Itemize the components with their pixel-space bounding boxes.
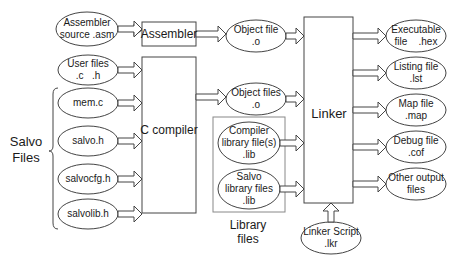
object-files-label: Object files .o [231, 87, 280, 111]
assembler-source-label: Assembler source .asm [60, 17, 114, 41]
linker-label: Linker [311, 106, 346, 122]
output-debug-label: Debug file .cof [393, 135, 438, 159]
arrow-icon [118, 95, 142, 111]
salvo-files-brace [49, 88, 58, 229]
output-listing-label: Listing file .lst [394, 61, 438, 85]
arrow-icon [118, 62, 142, 78]
arrow-icon [118, 206, 142, 222]
mem-c-label: mem.c [73, 97, 103, 109]
output-other-label: Other output files [388, 172, 444, 196]
c-compiler-label: C compiler [140, 123, 197, 137]
object-file-label: Object file .o [234, 24, 278, 48]
arrow-icon [353, 176, 386, 192]
arrow-icon [353, 65, 386, 81]
arrow-icon [280, 135, 304, 151]
arrow-icon [196, 89, 226, 105]
output-executable-label: Executable file .hex [391, 24, 440, 48]
arrow-icon [118, 133, 142, 149]
arrow-icon [196, 26, 226, 42]
linker-script-label: Linker Script .lkr [303, 226, 359, 250]
user-files-label: User files .c .h [67, 58, 109, 82]
salvo-h-label: salvo.h [72, 135, 104, 147]
assembler-label: Assembler [141, 27, 198, 41]
salvolib-h-label: salvolib.h [67, 208, 109, 220]
arrow-icon [353, 139, 386, 155]
arrow-icon [280, 181, 304, 197]
arrow-icon [353, 28, 386, 44]
compiler-library-label: Compiler library file(s) .lib [222, 125, 276, 161]
arrow-icon [118, 171, 142, 187]
library-files-group-label: Library files [230, 218, 267, 246]
salvo-library-label: Salvo library files .lib [225, 171, 273, 207]
arrow-icon [323, 203, 339, 222]
output-map-label: Map file .map [398, 98, 433, 122]
salvocfg-h-label: salvocfg.h [65, 173, 110, 185]
arrow-icon [118, 21, 142, 37]
arrow-icon [286, 91, 304, 107]
arrow-icon [286, 28, 304, 44]
arrow-icon [353, 102, 386, 118]
salvo-files-group-label: Salvo Files [10, 134, 43, 166]
